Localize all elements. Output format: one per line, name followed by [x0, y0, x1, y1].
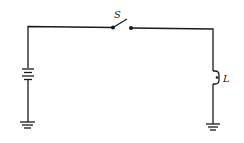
battery-icon — [22, 69, 34, 80]
lamp-filament — [216, 76, 219, 79]
lamp-label: L — [222, 73, 230, 84]
ground-left-icon — [20, 122, 35, 128]
circuit-diagram: S L — [0, 0, 244, 143]
wire-left-top — [28, 27, 113, 69]
switch-lever — [113, 19, 127, 28]
lamp: L — [213, 71, 230, 84]
switch: S — [111, 9, 133, 30]
wire-right-top — [131, 28, 213, 71]
ground-right-icon — [206, 124, 220, 130]
switch-label: S — [114, 9, 121, 20]
